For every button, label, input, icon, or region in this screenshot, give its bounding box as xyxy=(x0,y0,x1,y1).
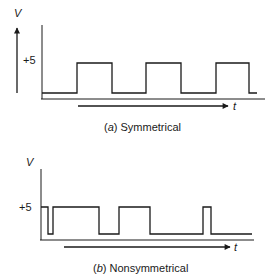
diagram-a-symmetrical xyxy=(17,25,265,106)
plus5-tick-label: +5 xyxy=(19,202,32,213)
t-axis-label: t xyxy=(233,101,236,112)
t-axis-label: t xyxy=(234,242,237,253)
caption-a: (a) Symmetrical xyxy=(104,122,181,133)
v-axis-label: V xyxy=(14,8,21,19)
symmetrical-square-wave xyxy=(42,63,257,93)
caption-letter: a xyxy=(108,121,114,133)
plus5-tick-label: +5 xyxy=(23,55,36,66)
caption-text: Nonsymmetrical xyxy=(106,262,188,274)
v-axis-label: V xyxy=(26,157,33,168)
waveform-diagrams xyxy=(0,0,272,276)
caption-text: Symmetrical xyxy=(117,121,181,133)
diagram-b-nonsymmetrical xyxy=(40,169,254,247)
nonsymmetrical-pulse-wave xyxy=(41,207,252,234)
caption-letter: b xyxy=(97,262,103,274)
caption-b: (b) Nonsymmetrical xyxy=(93,263,188,274)
